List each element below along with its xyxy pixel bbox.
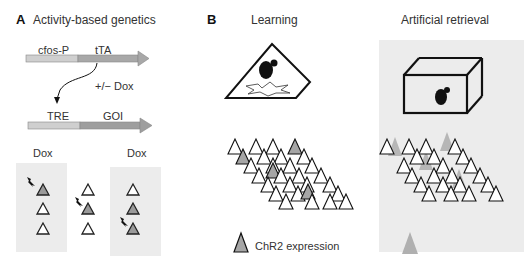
tre-goi-construct-arrow	[28, 118, 152, 133]
chr2-legend-icon	[234, 233, 248, 252]
cfos-tta-construct-arrow	[26, 51, 149, 66]
figure-graphics	[0, 0, 524, 270]
learning-neuron-population	[228, 139, 353, 209]
